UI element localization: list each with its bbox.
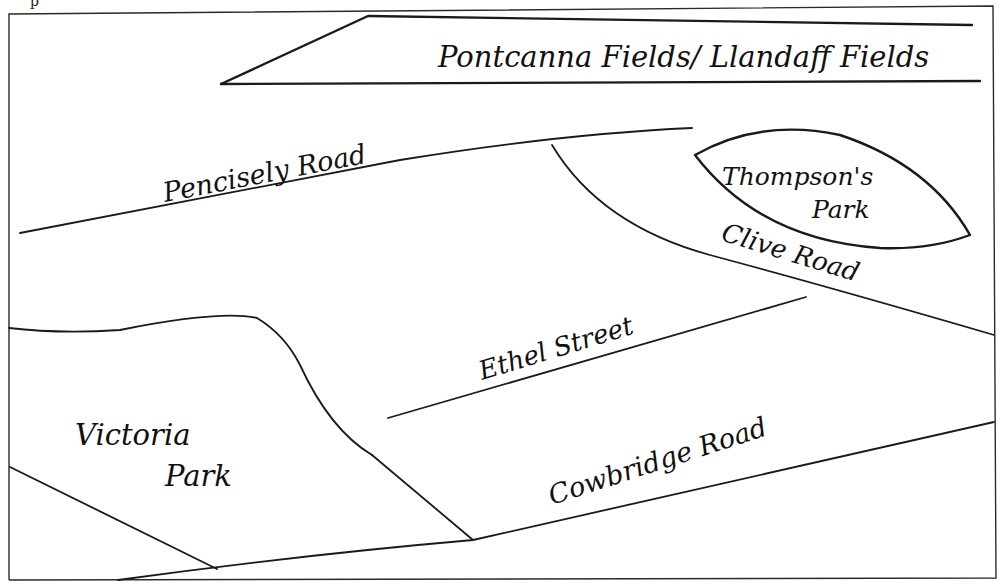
- label-cowbridge-road: Cowbridge Road: [544, 411, 770, 511]
- victoria-park-east-boundary: [372, 455, 473, 540]
- label-pencisely-road: Pencisely Road: [159, 138, 368, 208]
- label-thompsons-park-line2: Park: [811, 195, 870, 224]
- ethel-street: [388, 297, 806, 418]
- label-pontcanna-llandaff-fields: Pontcanna Fields/ Llandaff Fields: [437, 40, 929, 74]
- label-victoria-park-line1: Victoria: [75, 418, 191, 452]
- map-canvas: p Pontcanna Fields/ Llandaff Fields Penc…: [0, 0, 1000, 584]
- pontcanna-fields-bottom-boundary: [221, 81, 980, 84]
- cropped-title-glyph: p: [30, 0, 39, 9]
- street-map: p Pontcanna Fields/ Llandaff Fields Penc…: [0, 0, 1000, 584]
- label-ethel-street: Ethel Street: [474, 310, 637, 386]
- label-thompsons-park-line1: Thompson's: [722, 162, 873, 191]
- victoria-park-top-boundary: [9, 316, 372, 455]
- label-victoria-park-line2: Park: [164, 459, 232, 493]
